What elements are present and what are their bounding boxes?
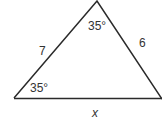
- apex-angle-label: 35°: [88, 19, 106, 33]
- right-side-label: 6: [139, 36, 146, 50]
- triangle-diagram: 35° 35° 7 6 x: [0, 0, 162, 121]
- left-side-label: 7: [39, 44, 46, 58]
- bottom-left-angle-label: 35°: [30, 81, 48, 95]
- triangle-figure: 35° 35° 7 6 x: [0, 0, 162, 121]
- base-side-label: x: [91, 106, 99, 120]
